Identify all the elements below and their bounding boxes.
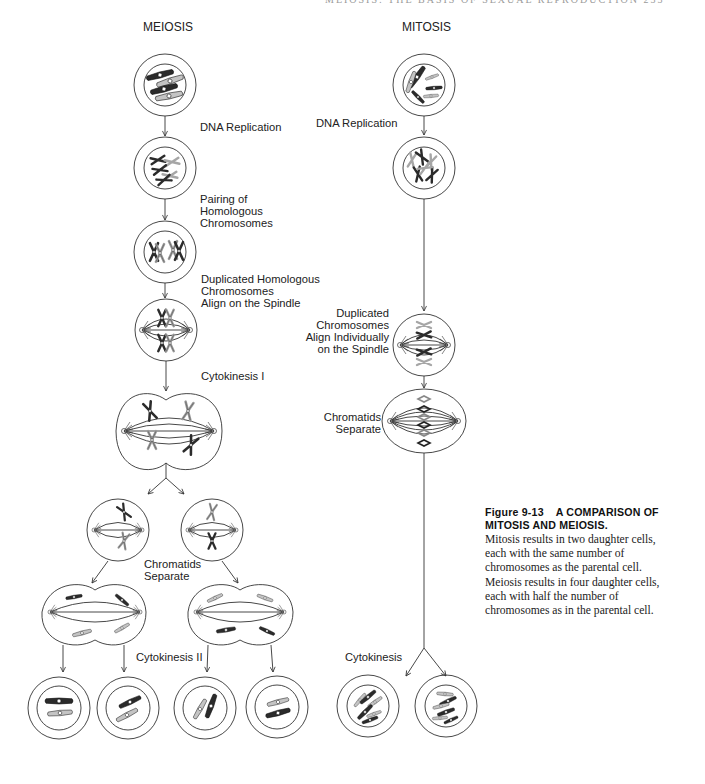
pairing-line-2: Homologous <box>200 205 263 218</box>
figure-number: Figure 9-13 <box>485 506 544 518</box>
caption-heading: Figure 9-13A COMPARISON OF MITOSIS AND M… <box>485 506 700 532</box>
caption-line: each with half the number of <box>485 590 700 604</box>
meiosis-dna-replication-label: DNA Replication <box>200 121 281 134</box>
meiosis-chromatids-line-1: Chromatids <box>144 558 201 571</box>
mitosis-anaphase-cell <box>382 389 466 453</box>
mitosis-title: MITOSIS <box>402 21 451 34</box>
mitosis-align-line-3: Align Individually <box>306 331 389 344</box>
caption-line: chromosomes as in the parental cell. <box>485 604 700 618</box>
mitosis-align-line-1: Duplicated <box>336 307 389 320</box>
caption-line: Mitosis results in two daughter cells, <box>485 533 700 547</box>
mitosis-cytokinesis-label: Cytokinesis <box>345 651 402 664</box>
meiosis-daughter-cell-4 <box>246 676 308 738</box>
caption-line: chromosomes as the parental cell. <box>485 561 700 575</box>
mitosis-chromatids-line-1: Chromatids <box>324 411 381 424</box>
meiosis-anaphase-2-cell-left <box>42 585 146 645</box>
meiosis-cytokinesis-1-label: Cytokinesis I <box>201 370 264 383</box>
meiosis-daughter-cell-1 <box>28 677 90 739</box>
caption-title-line-1: A COMPARISON OF <box>556 506 659 518</box>
align-line-1: Duplicated Homologous <box>201 273 320 286</box>
pairing-line-1: Pairing of <box>200 193 247 206</box>
caption-body: Mitosis results in two daughter cells, e… <box>485 533 700 618</box>
mitosis-parent-cell <box>393 54 455 116</box>
meiosis-daughter-cell-3 <box>174 677 236 739</box>
pairing-line-3: Chromosomes <box>200 217 273 230</box>
meiosis-title: MEIOSIS <box>143 21 193 34</box>
meiosis-anaphase-1-cell <box>116 394 222 470</box>
caption-line: Meiosis results in four daughter cells, <box>485 576 700 590</box>
meiosis-chromatids-line-2: Separate <box>144 570 189 583</box>
meiosis-replicated-cell <box>134 137 196 199</box>
align-line-2: Chromosomes <box>201 285 274 298</box>
mitosis-chromatids-line-2: Separate <box>336 423 381 436</box>
meiosis-daughter-cell-2 <box>97 677 159 739</box>
figure-caption: Figure 9-13A COMPARISON OF MITOSIS AND M… <box>485 506 700 618</box>
mitosis-align-line-4: on the Spindle <box>317 343 389 356</box>
caption-line: each with the same number of <box>485 547 700 561</box>
caption-title-line-2: MITOSIS AND MEIOSIS. <box>485 519 608 531</box>
meiosis-pairing-cell <box>134 221 196 283</box>
mitosis-dna-replication-label: DNA Replication <box>316 117 397 130</box>
meiosis-anaphase-2-cell-right <box>188 585 293 645</box>
align-line-3: Align on the Spindle <box>201 297 301 310</box>
chromosomes <box>45 65 461 725</box>
meiosis-cytokinesis-2-label: Cytokinesis II <box>136 651 203 664</box>
mitosis-align-line-2: Chromosomes <box>316 319 389 332</box>
